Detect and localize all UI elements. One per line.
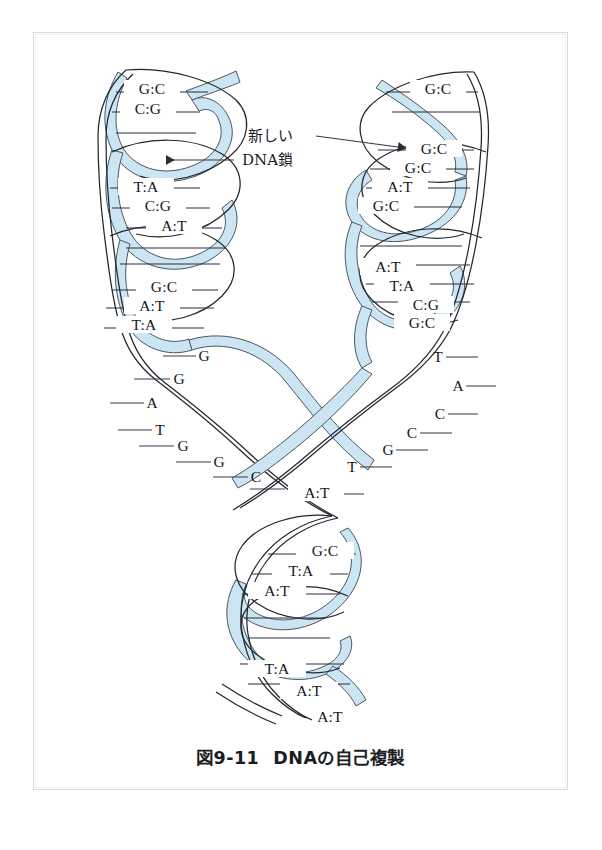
dna-replication-diagram: G:C C:G T:A C:G A:T G:C A:T T:A <box>0 0 602 850</box>
left-bp-7: T:A <box>132 316 157 333</box>
stem-bp-4: A:T <box>296 682 322 699</box>
stem-bp-labels: G:C T:A A:T T:A A:T A:T <box>248 542 354 725</box>
right-base-1: A <box>452 377 464 394</box>
left-bp-4: A:T <box>161 217 187 234</box>
right-new-strand-ribbon-3 <box>355 306 373 368</box>
right-bp-8: G:C <box>409 314 435 331</box>
annotation-line-1: 新しい <box>248 127 293 145</box>
annotation-leader-right <box>316 136 398 147</box>
right-base-3: C <box>407 424 417 441</box>
right-bp-1: G:C <box>421 140 447 157</box>
right-bp-5: A:T <box>375 258 401 275</box>
left-bp-1: C:G <box>135 100 161 117</box>
stem-bp-1: T:A <box>289 562 314 579</box>
fork-bp-0: A:T <box>304 484 330 501</box>
left-bp-5: G:C <box>151 278 177 295</box>
left-base-5: G <box>213 453 224 470</box>
right-bp-labels: G:C G:C G:C A:T G:C A:T T:A C:G G:C <box>358 80 466 331</box>
right-bp-7: C:G <box>413 296 439 313</box>
right-bp-6: T:A <box>390 277 415 294</box>
left-daughter-helix: G:C C:G T:A C:G A:T G:C A:T T:A <box>98 69 374 518</box>
right-bp-0: G:C <box>425 80 451 97</box>
left-unpaired-template-bases: G G A T G G C A <box>110 347 300 497</box>
left-template-backbone-a <box>98 70 332 516</box>
right-base-0: T <box>433 348 443 365</box>
right-base-2: C <box>435 405 445 422</box>
left-base-6: C <box>251 468 261 485</box>
left-base-4: G <box>177 437 188 454</box>
left-bp-2: T:A <box>134 178 159 195</box>
stem-bp-2: A:T <box>264 582 290 599</box>
stem-bottom-tail <box>222 684 282 716</box>
figure-root: G:C C:G T:A C:G A:T G:C A:T T:A <box>0 0 602 850</box>
left-bp-labels: G:C C:G T:A C:G A:T G:C A:T T:A <box>116 80 202 333</box>
caption-number: 図9-11 <box>196 748 259 768</box>
stem-bp-3: T:A <box>265 660 290 677</box>
caption-title: DNAの自己複製 <box>273 748 405 768</box>
left-base-2: A <box>146 394 158 411</box>
left-bp-6: A:T <box>139 297 165 314</box>
right-bp-2: G:C <box>405 159 431 176</box>
left-base-1: G <box>173 370 184 387</box>
replication-fork-junction: A:T <box>288 484 364 501</box>
stem-bp-5: A:T <box>317 708 343 725</box>
left-bp-0: G:C <box>139 80 165 97</box>
parental-duplex-stem: G:C T:A A:T T:A A:T A:T <box>216 515 366 725</box>
stem-bp-0: G:C <box>312 542 338 559</box>
right-bp-4: G:C <box>373 197 399 214</box>
left-bp-3: C:G <box>145 197 171 214</box>
left-base-3: T <box>155 421 165 438</box>
figure-caption: 図9-11DNAの自己複製 <box>33 744 568 769</box>
right-bp-3: A:T <box>387 178 413 195</box>
right-base-4: G <box>382 441 393 458</box>
left-base-0: G <box>198 347 209 364</box>
right-base-5: T <box>347 458 357 475</box>
stem-bottom-tail-2 <box>216 692 276 724</box>
annotation-line-2: DNA鎖 <box>242 151 293 169</box>
